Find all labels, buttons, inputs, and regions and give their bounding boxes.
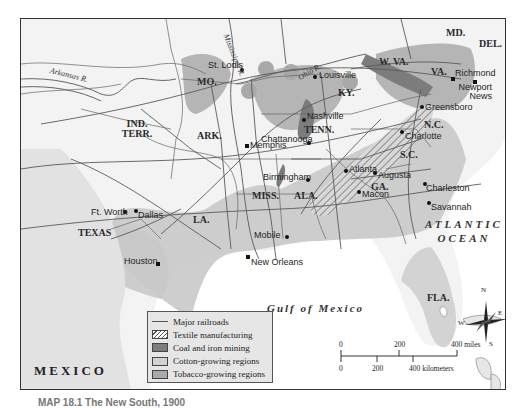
city-label-savannah: Savannah xyxy=(431,203,472,212)
compass-s: S xyxy=(489,341,493,348)
state-label-fla: FLA. xyxy=(427,293,450,303)
city-marker-augusta xyxy=(373,171,377,175)
city-label-ft-worth: Ft. Worth xyxy=(91,208,128,217)
city-label-dallas: Dallas xyxy=(138,211,163,220)
scale-km-0: 0 xyxy=(339,364,343,373)
map-frame: MO. IND. TERR. ARK. TEXAS LA. MISS. ALA.… xyxy=(20,18,506,390)
atlantic-label-line1: ATLANTIC xyxy=(421,219,506,230)
city-label-louisville: Louisville xyxy=(319,71,356,80)
state-label-wva: W. VA. xyxy=(379,57,409,67)
legend-item-tobacco: Tobacco-growing regions xyxy=(152,368,268,381)
scale-bar: 0 200 400 miles 0 200 400 kilometers xyxy=(339,331,489,381)
legend-item-textile: Textile manufacturing xyxy=(152,328,268,341)
state-label-ala: ALA. xyxy=(294,191,318,201)
state-label-ky: KY. xyxy=(338,88,355,98)
tobacco-swatch-icon xyxy=(152,370,168,379)
compass-e: E xyxy=(498,310,502,317)
city-marker-louisville xyxy=(313,75,317,79)
railroad-line-icon xyxy=(152,321,168,322)
state-label-md: MD. xyxy=(446,28,465,38)
state-label-la: LA. xyxy=(193,215,209,225)
map-caption: MAP 18.1 The New South, 1900 xyxy=(38,397,185,408)
city-marker-new-orleans xyxy=(246,255,250,259)
city-label-mobile: Mobile xyxy=(254,231,281,240)
city-marker-charlotte xyxy=(400,130,404,134)
map-legend: Major railroads Textile manufacturing Co… xyxy=(147,311,273,383)
city-label-richmond: Richmond xyxy=(455,69,496,78)
state-label-del: DEL. xyxy=(479,39,502,49)
city-label-augusta: Augusta xyxy=(378,171,411,180)
state-label-va: VA. xyxy=(431,67,447,77)
city-label-memphis: Memphis xyxy=(250,141,287,150)
city-marker-macon xyxy=(357,190,361,194)
scale-bar-graphic xyxy=(339,331,489,381)
compass-w: W xyxy=(458,320,465,327)
state-label-miss: MISS. xyxy=(252,191,279,201)
state-label-mo: MO. xyxy=(197,77,217,87)
legend-label: Cotton-growing regions xyxy=(173,356,259,366)
legend-item-coal-iron: Coal and iron mining xyxy=(152,341,268,354)
scale-miles-400: 400 miles xyxy=(451,340,480,349)
compass-n: N xyxy=(481,287,486,294)
legend-label: Major railroads xyxy=(173,317,229,327)
city-label-houston: Houston xyxy=(124,257,158,266)
country-label-mexico: MEXICO xyxy=(34,364,107,377)
state-label-sc: S.C. xyxy=(400,150,418,160)
scale-km-200: 200 xyxy=(372,364,383,373)
legend-label: Coal and iron mining xyxy=(173,343,250,353)
atlantic-label-line2: OCEAN xyxy=(421,233,506,244)
cotton-swatch-icon xyxy=(152,357,168,366)
city-label-macon: Macon xyxy=(362,190,389,199)
state-label-ind-terr: IND. TERR. xyxy=(117,119,157,139)
city-marker-nashville xyxy=(302,118,306,122)
coal-swatch-icon xyxy=(152,343,168,352)
gulf-of-mexico-label: Gulf of Mexico xyxy=(267,303,364,314)
state-label-ark: ARK. xyxy=(197,131,222,141)
city-label-charlotte: Charlotte xyxy=(405,132,442,141)
city-label-greensboro: Greensboro xyxy=(425,103,473,112)
hatch-swatch-icon xyxy=(152,330,168,339)
city-label-birmingham: Birmingham xyxy=(263,173,311,182)
city-marker-greensboro xyxy=(420,105,424,109)
city-marker-mobile xyxy=(285,235,289,239)
legend-item-cotton: Cotton-growing regions xyxy=(152,355,268,368)
city-label-newport-news: Newport News xyxy=(444,83,492,101)
city-label-nashville: Nashville xyxy=(307,112,344,121)
scale-miles-200: 200 xyxy=(394,340,405,349)
atlantic-ocean-label: ATLANTIC OCEAN xyxy=(421,219,506,244)
scale-km-400: 400 kilometers xyxy=(409,364,454,373)
state-label-texas: TEXAS xyxy=(78,228,111,238)
legend-label: Textile manufacturing xyxy=(173,330,253,340)
city-marker-atlanta xyxy=(344,169,348,173)
city-marker-memphis xyxy=(245,144,249,148)
scale-miles-0: 0 xyxy=(339,340,343,349)
legend-item-railroads: Major railroads xyxy=(152,315,268,328)
city-label-new-orleans: New Orleans xyxy=(251,258,303,267)
city-label-charleston: Charleston xyxy=(426,184,470,193)
state-label-nc: N.C. xyxy=(424,120,443,130)
legend-label: Tobacco-growing regions xyxy=(173,369,265,379)
